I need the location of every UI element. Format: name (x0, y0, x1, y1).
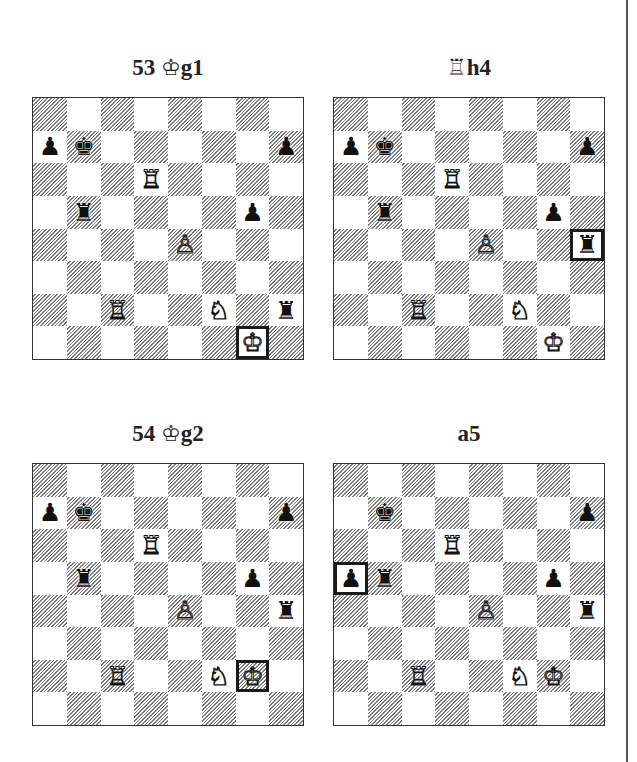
square-b6 (368, 529, 402, 562)
square-a4 (33, 595, 67, 628)
black-pawn-icon: ♟ (275, 134, 297, 159)
square-a6 (334, 529, 368, 562)
square-d1 (134, 326, 168, 359)
square-g3 (236, 627, 270, 660)
square-e1 (168, 326, 202, 359)
square-g4 (236, 229, 270, 262)
square-a2 (33, 294, 67, 327)
square-d1 (435, 326, 469, 359)
square-g1 (236, 692, 270, 725)
square-c3 (101, 627, 135, 660)
square-c7 (101, 497, 135, 530)
square-c5 (101, 562, 135, 595)
square-d6: ♖ (435, 163, 469, 196)
square-e6 (469, 163, 503, 196)
square-c3 (101, 261, 135, 294)
square-e7 (469, 131, 503, 164)
square-a2 (33, 660, 67, 693)
square-d3 (134, 261, 168, 294)
square-a8 (33, 98, 67, 131)
square-g5: ♟ (537, 562, 571, 595)
square-g7 (236, 131, 270, 164)
square-a7: ♟ (334, 131, 368, 164)
square-e3 (469, 627, 503, 660)
square-e7 (168, 497, 202, 530)
white-king-icon: ♔ (542, 664, 564, 689)
square-g3 (236, 261, 270, 294)
white-rook-icon: ♖ (106, 664, 128, 689)
black-king-icon: ♚ (72, 134, 94, 159)
square-b5: ♜ (67, 562, 101, 595)
square-b7: ♚ (67, 497, 101, 530)
square-a3 (334, 627, 368, 660)
square-a8 (33, 464, 67, 497)
square-g1: ♔ (537, 326, 571, 359)
square-f4 (202, 595, 236, 628)
white-pawn-icon: ♙ (174, 598, 196, 623)
king-icon: ♔ (161, 421, 181, 446)
square-h7: ♟ (269, 131, 303, 164)
black-king-icon: ♚ (373, 134, 395, 159)
square-b4 (67, 229, 101, 262)
square-f1 (202, 692, 236, 725)
square-b8 (67, 98, 101, 131)
rook-icon: ♖ (447, 55, 467, 80)
square-g6 (236, 529, 270, 562)
square-f2: ♘ (503, 660, 537, 693)
square-e7 (168, 131, 202, 164)
square-e6 (168, 163, 202, 196)
square-e2 (469, 660, 503, 693)
white-pawn-icon: ♙ (475, 598, 497, 623)
square-g1: ♔ (236, 326, 270, 359)
black-pawn-icon: ♟ (241, 566, 263, 591)
square-h6 (269, 163, 303, 196)
move-square: h4 (467, 55, 491, 80)
square-f3 (202, 261, 236, 294)
square-b7: ♚ (368, 497, 402, 530)
square-c1 (101, 692, 135, 725)
square-g5: ♟ (236, 196, 270, 229)
square-d1 (134, 692, 168, 725)
square-h2 (269, 660, 303, 693)
square-g4 (537, 595, 571, 628)
square-g2: ♔ (236, 660, 270, 693)
square-f3 (202, 627, 236, 660)
square-f8 (503, 98, 537, 131)
black-pawn-icon: ♟ (576, 500, 598, 525)
square-h4 (269, 229, 303, 262)
square-b6 (67, 163, 101, 196)
square-d3 (134, 627, 168, 660)
square-e2 (168, 660, 202, 693)
square-c4 (101, 229, 135, 262)
square-b1 (67, 326, 101, 359)
square-g2 (537, 294, 571, 327)
move-number: 54 (132, 421, 155, 446)
square-g7 (537, 131, 571, 164)
square-g1 (537, 692, 571, 725)
square-g6 (537, 163, 571, 196)
square-a7: ♟ (33, 131, 67, 164)
square-c5 (101, 196, 135, 229)
square-c7 (402, 131, 436, 164)
square-b1 (67, 692, 101, 725)
square-h6 (269, 529, 303, 562)
square-b5: ♜ (368, 196, 402, 229)
square-b8 (368, 98, 402, 131)
square-f1 (202, 326, 236, 359)
square-c6 (402, 163, 436, 196)
white-king-icon: ♔ (241, 664, 263, 689)
black-pawn-icon: ♟ (39, 500, 61, 525)
square-e8 (168, 98, 202, 131)
square-h5 (269, 196, 303, 229)
square-c1 (402, 326, 436, 359)
move-caption: 54 ♔g2 (32, 420, 304, 448)
square-d2 (435, 294, 469, 327)
square-b4 (368, 595, 402, 628)
square-c4 (101, 595, 135, 628)
square-c4 (402, 595, 436, 628)
square-b3 (67, 627, 101, 660)
white-rook-icon: ♖ (441, 167, 463, 192)
square-a8 (334, 98, 368, 131)
square-h1 (570, 692, 604, 725)
square-a4 (334, 595, 368, 628)
